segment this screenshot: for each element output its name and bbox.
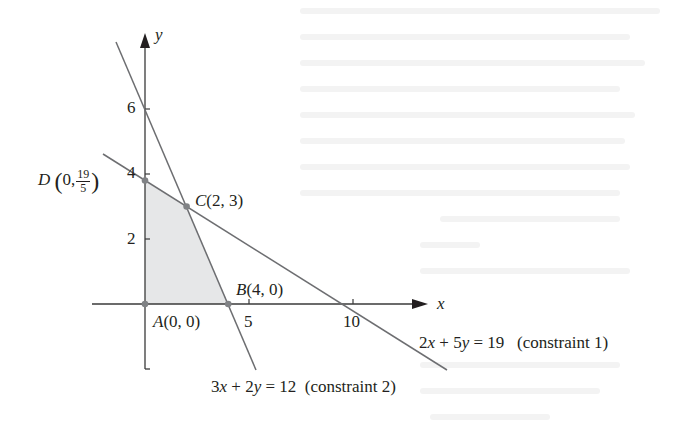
vertex-d-dot xyxy=(142,177,149,184)
vertex-d-label: D (0,195) xyxy=(38,168,99,194)
x-tick-label-5: 5 xyxy=(244,313,253,330)
vertex-a-label: A(0, 0) xyxy=(153,313,200,330)
y-axis-label: y xyxy=(155,26,163,43)
constraint-1-label: 2x + 5y = 19 (constraint 1) xyxy=(419,334,608,351)
x-tick-label-10: 10 xyxy=(343,313,360,330)
vertex-b-dot xyxy=(225,301,232,308)
x-axis-label: x xyxy=(437,295,445,312)
y-tick-label-6: 6 xyxy=(127,99,136,116)
constraint-2-label: 3x + 2y = 12 (constraint 2) xyxy=(211,378,396,395)
y-axis-arrow-icon xyxy=(140,33,150,48)
vertex-c-label: C(2, 3) xyxy=(195,192,243,209)
fraction-19-5: 195 xyxy=(76,168,90,194)
vertex-a-dot xyxy=(142,301,149,308)
vertex-c-dot xyxy=(183,203,190,210)
vertex-b-label: B(4, 0) xyxy=(236,281,283,298)
x-axis-arrow-icon xyxy=(412,299,428,309)
y-tick-label-2: 2 xyxy=(127,230,136,247)
y-tick-label-4: 4 xyxy=(127,164,136,181)
lp-diagram xyxy=(0,0,682,433)
